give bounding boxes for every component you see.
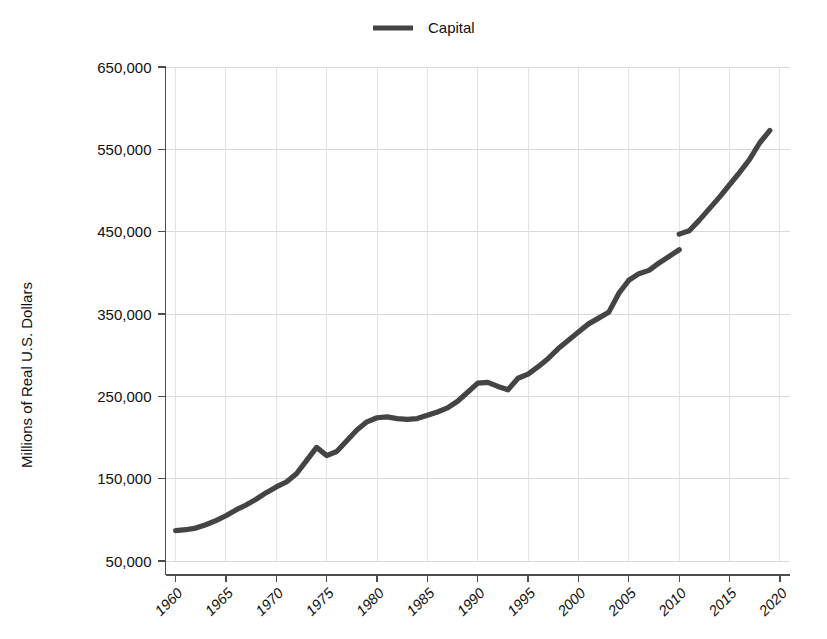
series-line-capital [679,130,770,234]
y-axis-tick-label: 650,000 [97,59,151,76]
y-axis-title-label: Millions of Real U.S. Dollars [18,282,35,468]
x-axis-tick-label: 2010 [654,585,689,620]
x-axis-tick-label: 1990 [454,585,488,619]
y-axis-tick-label: 450,000 [97,223,151,240]
x-axis-tick-label: 1965 [202,584,237,619]
y-axis-tick-label: 150,000 [97,470,151,487]
x-axis-tick-label: 1980 [353,585,387,619]
data-series-capital [176,130,770,530]
y-axis-tick-label: 550,000 [97,141,151,158]
x-axis-tick-label: 1960 [152,585,186,619]
y-axis-tick-label: 50,000 [106,553,152,570]
x-axis [166,575,791,582]
x-axis-tick-label: 2000 [554,585,589,620]
y-axis-tick-label: 350,000 [97,306,151,323]
chart-legend: Capital [373,19,475,36]
y-axis-tick-labels: 50,000150,000250,000350,000450,000550,00… [97,59,151,570]
chart-container: 50,000150,000250,000350,000450,000550,00… [0,0,827,639]
x-axis-tick-label: 2015 [705,584,740,619]
x-axis-tick-labels: 1960196519701975198019851990199520002005… [152,584,790,619]
x-axis-tick-label: 1985 [403,584,438,619]
y-axis [158,67,166,575]
x-axis-tick-label: 1995 [504,584,539,619]
legend-label-capital: Capital [428,19,475,36]
capital-line-chart: 50,000150,000250,000350,000450,000550,00… [0,0,827,639]
x-axis-tick-label: 2020 [755,585,790,620]
x-axis-tick-label: 1970 [252,585,286,619]
y-axis-title: Millions of Real U.S. Dollars [18,282,35,468]
x-axis-tick-label: 2005 [604,584,639,619]
y-axis-tick-label: 250,000 [97,388,151,405]
x-axis-tick-label: 1975 [303,584,338,619]
